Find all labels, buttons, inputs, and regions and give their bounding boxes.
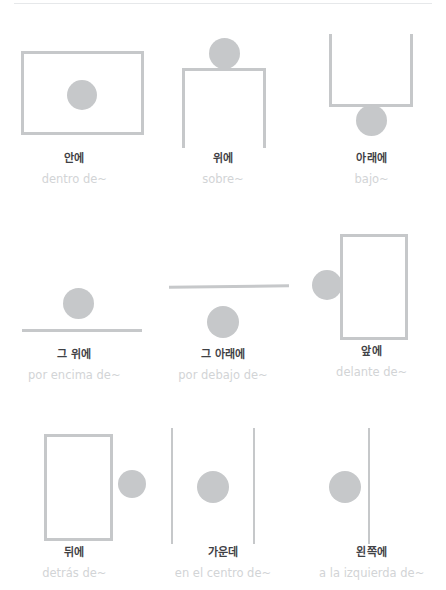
table-shape — [182, 68, 266, 148]
line-shape — [22, 329, 142, 332]
preposition-cell-in-the-middle: 가운데 en el centro de~ — [149, 425, 298, 590]
prepositions-grid: 안에 dentro de~ 위에 sobre~ 아래에 bajo~ — [0, 0, 446, 590]
label-group: 그 위에 por encima de~ — [0, 348, 149, 382]
diagram-circle-in-front-of-rectangle — [297, 225, 446, 345]
preposition-cell-to-the-left: 왼쪽에 a la izquierda de~ — [297, 425, 446, 590]
diagram-circle-behind-rectangle — [0, 425, 149, 545]
rectangle-shape — [44, 434, 113, 541]
circle-shape — [329, 471, 361, 503]
label-group: 위에 sobre~ — [149, 152, 298, 186]
diagram-circle-under-container — [297, 25, 446, 145]
circle-shape — [207, 306, 239, 338]
diagram-circle-between-two-lines — [149, 425, 298, 545]
preposition-cell-above: 그 위에 por encima de~ — [0, 270, 149, 390]
prepositions-chart-page: 안에 dentro de~ 위에 sobre~ 아래에 bajo~ — [0, 0, 446, 590]
spanish-label: sobre~ — [149, 172, 298, 186]
circle-shape — [118, 470, 146, 498]
korean-label: 앞에 — [297, 345, 446, 359]
preposition-cell-in-front-of: 앞에 delante de~ — [297, 225, 446, 390]
korean-label: 왼쪽에 — [297, 546, 446, 560]
preposition-cell-on-top: 위에 sobre~ — [149, 30, 298, 190]
preposition-cell-below: 그 아래에 por debajo de~ — [149, 260, 298, 390]
right-line-shape — [253, 428, 255, 544]
diagram-circle-inside-rectangle — [0, 30, 149, 145]
label-group: 뒤에 detrás de~ — [0, 546, 149, 580]
label-group: 가운데 en el centro de~ — [149, 546, 298, 580]
spanish-label: dentro de~ — [0, 172, 149, 186]
korean-label: 안에 — [0, 152, 149, 166]
label-group: 왼쪽에 a la izquierda de~ — [297, 546, 446, 580]
rectangle-shape — [340, 234, 408, 340]
korean-label: 그 위에 — [0, 348, 149, 362]
preposition-cell-behind: 뒤에 detrás de~ — [0, 425, 149, 590]
diagram-circle-below-line — [149, 260, 298, 348]
korean-label: 가운데 — [149, 546, 298, 560]
spanish-label: bajo~ — [297, 172, 446, 186]
diagram-circle-left-of-line — [297, 425, 446, 545]
diagram-circle-above-line — [0, 270, 149, 345]
preposition-cell-under: 아래에 bajo~ — [297, 25, 446, 190]
line-shape — [368, 428, 370, 544]
korean-label: 그 아래에 — [149, 348, 298, 362]
spanish-label: en el centro de~ — [149, 566, 298, 580]
spanish-label: por encima de~ — [0, 368, 149, 382]
diagram-circle-on-table-top — [149, 30, 298, 145]
spanish-label: detrás de~ — [0, 566, 149, 580]
circle-shape — [209, 38, 240, 69]
spanish-label: por debajo de~ — [149, 368, 298, 382]
preposition-cell-inside: 안에 dentro de~ — [0, 30, 149, 190]
circle-shape — [356, 105, 387, 136]
label-group: 앞에 delante de~ — [297, 345, 446, 379]
label-group: 안에 dentro de~ — [0, 152, 149, 186]
line-shape — [169, 284, 289, 288]
label-group: 그 아래에 por debajo de~ — [149, 348, 298, 382]
korean-label: 아래에 — [297, 152, 446, 166]
circle-shape — [67, 80, 97, 110]
korean-label: 위에 — [149, 152, 298, 166]
korean-label: 뒤에 — [0, 546, 149, 560]
spanish-label: a la izquierda de~ — [297, 566, 446, 580]
left-line-shape — [171, 428, 173, 544]
container-shape — [329, 34, 413, 107]
circle-shape — [63, 288, 94, 319]
label-group: 아래에 bajo~ — [297, 152, 446, 186]
circle-shape — [197, 471, 229, 503]
spanish-label: delante de~ — [297, 365, 446, 379]
circle-shape — [312, 270, 342, 300]
